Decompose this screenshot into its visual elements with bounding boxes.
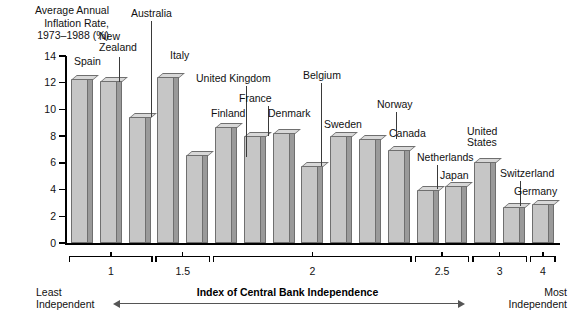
bar-front-face — [186, 155, 203, 243]
bar-front-face — [273, 133, 290, 243]
bar-front-face — [100, 81, 117, 243]
bar-label-norway: Norway — [377, 99, 413, 110]
bar-new-zealand — [100, 81, 122, 243]
bar-top-face — [100, 77, 128, 82]
bar-spain — [71, 79, 93, 243]
bar-label-canada: Canada — [389, 128, 426, 139]
brace-left-cap — [155, 256, 156, 262]
brace-mid-tick — [182, 252, 183, 257]
bar-front-face — [215, 127, 232, 243]
bar-front-face — [532, 204, 549, 243]
bar-japan — [445, 186, 467, 243]
bar-norway — [359, 139, 381, 243]
plot-area — [66, 56, 559, 243]
y-axis-title-line-3: 1973–1988 (%) — [4, 29, 109, 42]
bar-front-face — [503, 207, 520, 243]
bar-front-face — [359, 139, 376, 243]
x-group-label-2: 2 — [213, 266, 412, 277]
y-tick-label-14: 14 — [14, 51, 56, 62]
y-tick-label-8: 8 — [14, 131, 56, 142]
bar-canada — [388, 150, 410, 244]
bar-united-kingdom — [186, 155, 208, 243]
brace-right-cap — [468, 256, 469, 262]
leader-line-australia — [151, 21, 152, 117]
y-tick-10 — [59, 109, 66, 110]
bar-top-face — [215, 123, 243, 128]
x-group-brace-2 — [213, 252, 412, 261]
bar-top-face — [388, 146, 416, 151]
brace-mid-tick — [499, 252, 500, 257]
bar-label-united-kingdom: United Kingdom — [196, 73, 271, 84]
x-group-brace-1.5 — [155, 252, 210, 261]
brace-left-cap — [472, 256, 473, 262]
brace-right-cap — [554, 256, 555, 262]
bar-united-states — [474, 162, 496, 243]
bar-label-switzerland: Switzerland — [500, 168, 554, 179]
brace-mid-tick — [312, 252, 313, 257]
y-tick-label-0: 0 — [14, 238, 56, 249]
bar-australia — [129, 117, 151, 243]
brace-mid-tick — [542, 252, 543, 257]
arrow-right-head-icon — [458, 300, 465, 308]
bar-label-united-states: UnitedStates — [467, 126, 497, 149]
y-tick-label-10: 10 — [14, 104, 56, 115]
y-tick-2 — [59, 216, 66, 217]
bar-front-face — [417, 190, 434, 243]
y-tick-label-4: 4 — [14, 184, 56, 195]
bar-top-face — [532, 200, 560, 205]
bar-label-finland: Finland — [211, 108, 245, 119]
y-tick-4 — [59, 189, 66, 190]
brace-left-cap — [213, 256, 214, 262]
brace-left-cap — [530, 256, 531, 262]
bar-label-new-zealand: NewZealand — [99, 31, 137, 54]
brace-mid-tick — [441, 252, 442, 257]
y-tick-label-6: 6 — [14, 157, 56, 168]
bar-front-face — [157, 77, 174, 243]
most-independent-annotation: Most Independent — [509, 286, 567, 311]
bar-label-france: France — [239, 93, 272, 104]
x-group-brace-3 — [472, 252, 527, 261]
bar-top-face — [71, 75, 99, 80]
bar-front-face — [445, 186, 462, 243]
bar-france — [244, 136, 266, 243]
bar-belgium — [301, 166, 323, 243]
x-group-label-2.5: 2.5 — [415, 266, 470, 277]
direction-arrow-line — [120, 303, 458, 304]
bar-label-germany: Germany — [514, 186, 557, 197]
bar-top-face — [301, 162, 329, 167]
y-tick-14 — [59, 55, 66, 56]
brace-left-cap — [415, 256, 416, 262]
bar-top-face — [330, 132, 358, 137]
x-axis-line — [65, 243, 560, 245]
x-group-label-3: 3 — [472, 266, 527, 277]
bar-top-face — [503, 203, 531, 208]
bar-switzerland — [503, 207, 525, 243]
bar-label-denmark: Denmark — [268, 108, 311, 119]
bar-front-face — [129, 117, 146, 243]
brace-left-cap — [69, 256, 70, 262]
y-axis-title: Average Annual Inflation Rate, 1973–1988… — [4, 4, 109, 42]
y-tick-6 — [59, 162, 66, 163]
chart-root: Average Annual Inflation Rate, 1973–1988… — [0, 0, 575, 318]
bar-germany — [532, 204, 554, 243]
bar-top-face — [417, 186, 445, 191]
brace-right-cap — [209, 256, 210, 262]
bar-label-spain: Spain — [74, 56, 101, 67]
bar-denmark — [273, 133, 295, 243]
bar-label-italy: Italy — [170, 50, 189, 61]
leader-line-new-zealand — [119, 57, 120, 82]
bar-top-face — [474, 158, 502, 163]
bar-label-japan: Japan — [440, 170, 469, 181]
x-group-label-1.5: 1.5 — [155, 266, 210, 277]
bar-label-sweden: Sweden — [324, 119, 362, 130]
least-independent-line-2: Independent — [36, 298, 94, 310]
y-axis-title-line-1: Average Annual — [4, 4, 109, 17]
bar-front-face — [330, 136, 347, 243]
bar-top-face — [186, 151, 214, 156]
brace-right-cap — [151, 256, 152, 262]
brace-right-cap — [526, 256, 527, 262]
most-independent-line-2: Independent — [509, 298, 567, 310]
brace-right-cap — [410, 256, 411, 262]
bar-sweden — [330, 136, 352, 243]
bar-front-face — [388, 150, 405, 244]
